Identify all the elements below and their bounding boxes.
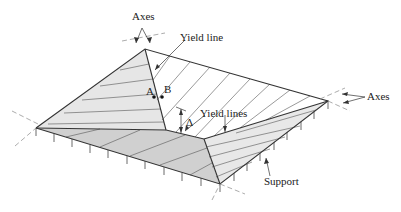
axes-label-top: Axes — [132, 11, 155, 22]
support-label: Support — [264, 176, 299, 187]
delta-label: Δ — [186, 117, 193, 128]
slab-panel-top-right — [145, 49, 328, 139]
point-a-label: A — [146, 86, 154, 97]
point-b-label: B — [164, 84, 171, 95]
point-b-marker — [160, 95, 164, 99]
yield-line-label: Yield line — [180, 32, 223, 43]
axes-label-right: Axes — [367, 91, 390, 102]
yield-line-diagram: Axes Yield line A B Δ Yield lines Axes S… — [0, 0, 401, 212]
yield-lines-label: Yield lines — [200, 108, 247, 119]
